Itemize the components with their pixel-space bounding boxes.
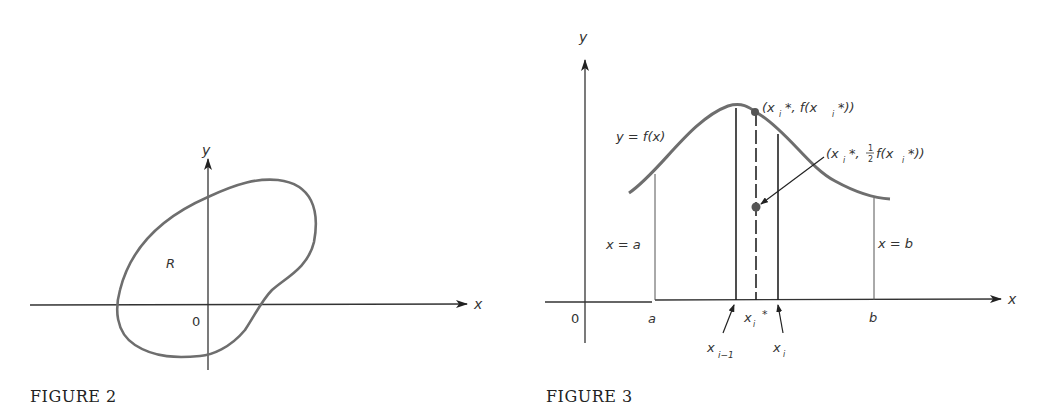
svg-text:i: i (783, 350, 786, 359)
svg-text:*)): *)) (908, 146, 925, 161)
y-axis-label: y (201, 142, 211, 158)
svg-text:*)): *)) (838, 100, 855, 115)
figure-3-caption: FIGURE 3 (546, 387, 633, 406)
point-xi-star-half-f (752, 203, 761, 212)
svg-text:i: i (843, 156, 846, 165)
tick-b-label: b (869, 310, 877, 325)
svg-text:i: i (902, 156, 905, 165)
x-axis-label: x (1007, 291, 1017, 307)
figure-2: R 0 x y FIGURE 2 (30, 142, 483, 406)
svg-text:*: * (762, 308, 768, 321)
figure-3: y x 0 a b y = f(x) x = a x = b x i * x i… (545, 29, 1017, 406)
svg-text:(x: (x (826, 146, 839, 161)
x-axis (30, 304, 467, 305)
point-xi-star-f (751, 108, 759, 116)
svg-text:*,: *, (849, 146, 860, 161)
svg-text:1: 1 (868, 144, 873, 153)
tick-a-label: a (648, 311, 656, 326)
x-axis-label: x (473, 296, 483, 312)
svg-text:2: 2 (868, 155, 873, 164)
region-r-boundary (117, 180, 316, 357)
svg-text:x: x (772, 340, 781, 355)
svg-text:i−1: i−1 (718, 350, 734, 360)
x-i-minus-1-pointer-arrow (723, 305, 734, 333)
svg-text:i: i (779, 110, 782, 119)
left-bound-label: x = a (605, 237, 641, 252)
x-axis (655, 299, 1001, 300)
svg-text:i: i (832, 110, 835, 119)
tick-xi-star-label: x i * (743, 308, 768, 329)
figure-2-caption: FIGURE 2 (30, 387, 117, 406)
point-top-label: (x i *, f(x i *)) (762, 100, 855, 119)
svg-text:f(x: f(x (876, 146, 894, 161)
tick-xi-minus-1-label: x i−1 (706, 340, 734, 360)
point-mid-label: (x i *, 1 2 f(x i *)) (826, 144, 925, 165)
svg-text:x: x (706, 340, 715, 355)
svg-text:x: x (743, 310, 752, 325)
svg-text:i: i (753, 320, 756, 329)
function-label: y = f(x) (615, 129, 665, 144)
region-label: R (166, 256, 175, 271)
x-i-pointer-arrow (778, 305, 783, 333)
mid-point-pointer-arrow (761, 157, 824, 204)
svg-text:*, f(x: *, f(x (785, 100, 817, 115)
svg-text:(x: (x (762, 100, 775, 115)
origin-label: 0 (192, 314, 200, 329)
tick-xi-label: x i (772, 340, 786, 359)
y-axis-label: y (578, 29, 588, 45)
figures-canvas: R 0 x y FIGURE 2 y x 0 a b y = f(x) (0, 0, 1046, 413)
right-bound-label: x = b (877, 236, 913, 251)
origin-label: 0 (571, 311, 579, 326)
